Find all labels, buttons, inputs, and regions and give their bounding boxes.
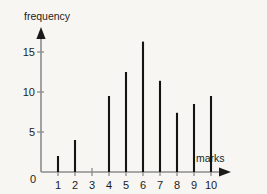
chart-canvas: 15 10 5 0 frequency marks 1 2 3 4 5 6 7 … bbox=[0, 0, 267, 194]
x-tick-label-10: 10 bbox=[205, 179, 217, 191]
x-tick-label-2: 2 bbox=[72, 179, 78, 191]
y-axis-title: frequency bbox=[24, 10, 71, 22]
y-tick-label-15: 15 bbox=[23, 46, 35, 58]
y-axis-arrow-icon bbox=[36, 27, 45, 39]
x-tick-label-9: 9 bbox=[191, 179, 197, 191]
x-axis-arrow-icon bbox=[219, 167, 231, 176]
y-tick-label-10: 10 bbox=[23, 86, 35, 98]
x-tick-label-4: 4 bbox=[106, 179, 112, 191]
frequency-chart: 15 10 5 0 frequency marks 1 2 3 4 5 6 7 … bbox=[0, 0, 267, 194]
x-tick-label-8: 8 bbox=[174, 179, 180, 191]
y-tick-label-5: 5 bbox=[29, 126, 35, 138]
data-series bbox=[58, 42, 211, 172]
x-tick-label-5: 5 bbox=[123, 179, 129, 191]
x-tick-label-1: 1 bbox=[55, 179, 61, 191]
x-tick-label-6: 6 bbox=[140, 179, 146, 191]
x-tick-label-7: 7 bbox=[157, 179, 163, 191]
x-tick-label-3: 3 bbox=[89, 179, 95, 191]
y-tick-label-0: 0 bbox=[30, 173, 36, 185]
